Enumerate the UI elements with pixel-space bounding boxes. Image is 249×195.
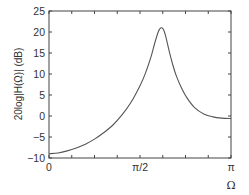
magnitude-curve [49, 28, 231, 154]
y-axis-label: 20log|H(Ω)| (dB) [13, 48, 24, 121]
y-tick-label: 20 [33, 26, 45, 38]
x-tick-label: π/2 [132, 161, 148, 173]
y-tick-label: 25 [33, 5, 45, 17]
y-tick-label: −10 [27, 152, 45, 164]
y-tick-label: 5 [39, 89, 45, 101]
y-tick-label: 15 [33, 47, 45, 59]
x-tick-label: π [227, 161, 234, 173]
y-tick-label: 0 [39, 110, 45, 122]
plot-border [49, 11, 231, 158]
y-tick-label: 10 [33, 68, 45, 80]
y-axis-ticks: −10−50510152025 [27, 5, 231, 164]
y-tick-label: −5 [33, 131, 45, 143]
x-tick-label: 0 [46, 161, 52, 173]
plot-frame [49, 11, 231, 158]
x-axis-label: Ω [226, 179, 235, 192]
chart: −10−50510152025 0π/2π 20log|H(Ω)| (dB) Ω [0, 0, 249, 195]
